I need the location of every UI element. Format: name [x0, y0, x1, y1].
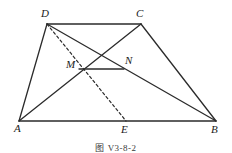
segment-diagonal-AC: [19, 24, 141, 121]
segment-side-CB: [141, 24, 216, 121]
vertex-label-D: D: [41, 8, 49, 19]
segment-cevian-DE: [47, 24, 126, 121]
segment-diagonal-DB: [47, 24, 216, 121]
vertex-label-E: E: [121, 124, 128, 135]
figure-strokes: [19, 24, 216, 121]
segment-side-AD: [19, 24, 47, 121]
geometry-figure: D C A B E M N 图 V3-8-2: [0, 0, 232, 153]
vertex-label-B: B: [211, 124, 218, 135]
vertex-label-A: A: [14, 123, 21, 134]
geometry-canvas: [0, 0, 232, 153]
vertex-label-N: N: [125, 55, 132, 66]
vertex-label-M: M: [66, 59, 75, 70]
vertex-label-C: C: [136, 8, 143, 19]
figure-caption: 图 V3-8-2: [0, 143, 232, 153]
